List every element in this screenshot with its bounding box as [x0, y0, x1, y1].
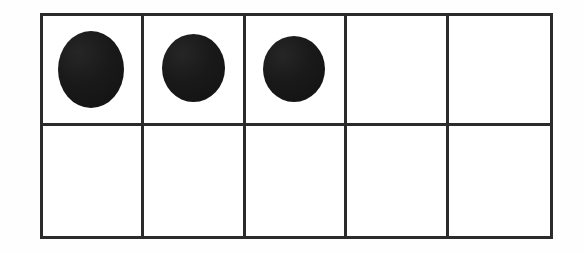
- counter-token-3[interactable]: [263, 36, 325, 102]
- counter-token-2[interactable]: [162, 34, 225, 102]
- ten-frame-cell-8[interactable]: [246, 126, 347, 236]
- ten-frame-cell-7[interactable]: [144, 126, 245, 236]
- counter-token-1[interactable]: [58, 31, 124, 108]
- ten-frame-cell-6[interactable]: [43, 126, 144, 236]
- canvas: [0, 0, 583, 254]
- ten-frame-cell-2[interactable]: [144, 16, 245, 126]
- ten-frame-cell-1[interactable]: [43, 16, 144, 126]
- ten-frame-grid: [40, 13, 553, 239]
- ten-frame-cell-5[interactable]: [449, 16, 550, 126]
- ten-frame-cell-3[interactable]: [246, 16, 347, 126]
- ten-frame-cell-4[interactable]: [347, 16, 448, 126]
- ten-frame-cell-9[interactable]: [347, 126, 448, 236]
- ten-frame-cell-10[interactable]: [449, 126, 550, 236]
